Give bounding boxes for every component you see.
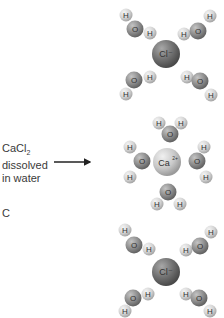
chloride-ion: Cl⁻	[152, 40, 180, 68]
svg-text:O: O	[197, 242, 203, 251]
svg-text:H: H	[123, 11, 129, 20]
water-molecule: H H O	[120, 9, 157, 40]
water-molecule: H H O	[124, 141, 151, 184]
chloride-cluster-top: H H O H H O Cl⁻ H O H H O H	[120, 9, 218, 102]
svg-text:H: H	[178, 119, 184, 128]
svg-text:H: H	[207, 307, 213, 316]
svg-text:H: H	[177, 200, 183, 209]
svg-text:H: H	[207, 12, 213, 21]
svg-text:O: O	[131, 76, 137, 85]
svg-text:O: O	[167, 130, 173, 139]
svg-text:H: H	[156, 119, 162, 128]
svg-text:H: H	[184, 73, 190, 82]
water-molecule: H O H	[120, 71, 157, 101]
water-molecule: H H O	[180, 226, 218, 257]
water-molecule: O H H	[151, 184, 187, 211]
svg-text:O: O	[195, 27, 201, 36]
svg-text:2+: 2+	[172, 155, 178, 161]
chloride-cluster-bottom: H H O H H O Cl⁻ H O H H O H	[119, 224, 218, 318]
svg-text:O: O	[165, 188, 171, 197]
svg-text:O: O	[197, 77, 203, 86]
svg-text:H: H	[183, 290, 189, 299]
hydration-diagram: H H O H H O Cl⁻ H O H H O H O	[0, 0, 224, 318]
svg-text:H: H	[183, 246, 189, 255]
svg-text:H: H	[181, 30, 187, 39]
water-molecule: H O H	[180, 288, 217, 318]
water-molecule: H O H	[119, 288, 155, 318]
svg-text:O: O	[139, 157, 145, 166]
svg-text:H: H	[147, 29, 153, 38]
svg-text:H: H	[127, 173, 133, 182]
svg-text:Cl⁻: Cl⁻	[159, 267, 173, 277]
water-molecule: H H O	[119, 224, 156, 256]
calcium-cluster: O H H H H O Ca 2+ H H O O H H	[124, 117, 213, 211]
svg-text:O: O	[196, 294, 202, 303]
svg-text:O: O	[130, 294, 136, 303]
water-molecule: H H O	[178, 10, 217, 41]
svg-text:H: H	[203, 173, 209, 182]
water-molecule: H O H	[181, 71, 218, 102]
svg-text:H: H	[208, 91, 214, 100]
svg-text:H: H	[201, 143, 207, 152]
svg-text:O: O	[194, 157, 200, 166]
chloride-ion: Cl⁻	[152, 258, 180, 286]
svg-text:Cl⁻: Cl⁻	[159, 49, 173, 59]
svg-text:H: H	[147, 73, 153, 82]
svg-text:Ca: Ca	[158, 158, 170, 168]
svg-text:H: H	[127, 143, 133, 152]
svg-text:H: H	[122, 226, 128, 235]
svg-text:H: H	[146, 245, 152, 254]
calcium-ion: Ca 2+	[153, 148, 181, 176]
water-molecule: H H O	[189, 141, 213, 184]
svg-text:H: H	[122, 307, 128, 316]
svg-text:H: H	[208, 228, 214, 237]
svg-text:O: O	[131, 241, 137, 250]
svg-text:H: H	[154, 200, 160, 209]
svg-text:O: O	[132, 25, 138, 34]
water-molecule: O H H	[153, 117, 188, 143]
svg-text:H: H	[145, 290, 151, 299]
svg-text:H: H	[123, 90, 129, 99]
